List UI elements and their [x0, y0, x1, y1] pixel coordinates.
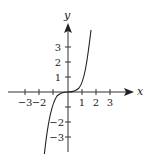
cubic-function-plot: −3 −2 1 2 3 3 2 1 −2 −3 x y — [0, 0, 149, 161]
y-tick-label: −3 — [49, 132, 64, 143]
x-tick-label: −3 — [18, 97, 33, 108]
x-tick-label: 2 — [93, 97, 99, 108]
y-tick-label: −2 — [49, 117, 64, 128]
x-tick-label: −2 — [32, 97, 47, 108]
y-axis-label: y — [63, 9, 71, 22]
y-tick-label: 3 — [55, 42, 61, 53]
x-tick-label: 1 — [79, 97, 85, 108]
x-axis-label: x — [137, 85, 144, 98]
y-tick-label: 1 — [55, 72, 61, 83]
y-tick-label: 2 — [55, 57, 61, 68]
x-tick-label: 3 — [107, 97, 113, 108]
